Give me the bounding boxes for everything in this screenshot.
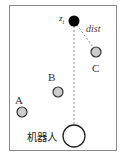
robot-navigation-diagram: zt dist C B A 机器人 xyxy=(0,0,122,160)
dist-label: dist xyxy=(86,24,100,34)
robot-label: 机器人 xyxy=(27,132,57,143)
goal-point xyxy=(69,16,80,27)
landmark-a xyxy=(17,107,27,117)
landmark-b-label: B xyxy=(48,72,55,83)
landmark-a-label: A xyxy=(15,95,23,106)
landmark-c-label: C xyxy=(92,63,99,74)
landmark-c xyxy=(91,47,101,57)
landmark-b xyxy=(53,87,63,97)
goal-label-subscript: t xyxy=(63,19,65,25)
goal-label: zt xyxy=(59,14,64,25)
robot-circle xyxy=(63,125,85,147)
